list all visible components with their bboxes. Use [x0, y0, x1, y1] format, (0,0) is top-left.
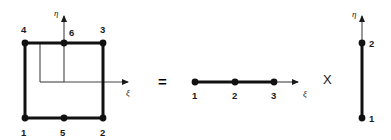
element-2d-node-4[interactable] [22, 40, 29, 47]
element-2d-node-5[interactable] [61, 115, 68, 122]
equals-operator: = [158, 73, 167, 90]
element-2d-node-label-6: 6 [69, 27, 74, 38]
element-2d-local-axes [40, 16, 128, 82]
times-operator: X [323, 72, 332, 87]
element-1d-eta-axis-label: η [352, 9, 357, 19]
element-1d-eta-node-1[interactable] [359, 115, 366, 122]
element-1d-xi-node-label-3: 3 [271, 90, 276, 101]
element-2d-node-label-1: 1 [21, 127, 27, 138]
element-2d-node-label-2: 2 [100, 127, 105, 138]
element-2d-node-1[interactable] [22, 115, 29, 122]
element-2d-node-label-5: 5 [60, 127, 66, 138]
element-2d-node-label-4: 4 [21, 24, 27, 35]
element-1d-xi-node-3[interactable] [271, 79, 278, 86]
element-2d-node-3[interactable] [100, 40, 107, 47]
element-1d-eta: 1 2 η [352, 9, 375, 124]
figure-canvas: 1 2 3 4 5 6 η ξ = 1 2 3 ξ X [0, 0, 391, 140]
element-1d-eta-node-label-1: 1 [369, 113, 375, 124]
element-1d-xi-axis-label: ξ [303, 89, 307, 99]
element-1d-eta-node-2[interactable] [359, 40, 366, 47]
element-1d-xi-node-label-1: 1 [192, 90, 198, 101]
element-2d-quadrilateral: 1 2 3 4 5 6 η ξ [21, 8, 130, 138]
element-1d-xi-node-2[interactable] [232, 79, 239, 86]
element-1d-xi-node-label-2: 2 [232, 90, 237, 101]
element-1d-xi: 1 2 3 ξ [192, 79, 307, 101]
figure-root: 1 2 3 4 5 6 η ξ = 1 2 3 ξ X [0, 0, 391, 140]
element-1d-eta-node-label-2: 2 [369, 38, 374, 49]
element-1d-xi-node-1[interactable] [192, 79, 199, 86]
element-2d-xi-axis-label: ξ [126, 88, 130, 98]
element-2d-node-label-3: 3 [100, 24, 105, 35]
element-2d-node-2[interactable] [100, 115, 107, 122]
element-2d-eta-axis-label: η [54, 8, 59, 18]
element-2d-node-6[interactable] [61, 40, 68, 47]
